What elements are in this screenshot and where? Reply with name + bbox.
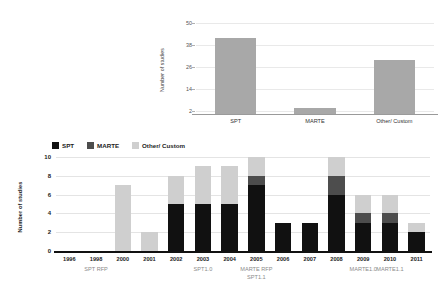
bottom-chart-milestone-annotation: SPT1.0 — [194, 266, 213, 272]
top-chart-y-tick-mark — [192, 89, 195, 90]
legend-swatch-icon — [87, 142, 94, 149]
bottom-chart-bar — [248, 157, 265, 251]
legend-swatch-icon — [132, 142, 139, 149]
bottom-chart-x-tick-label: 2008 — [330, 256, 342, 262]
bottom-chart-bar-segment — [328, 176, 345, 195]
bottom-chart-bar — [382, 195, 399, 251]
top-chart-y-tick-mark — [192, 45, 195, 46]
chart-legend: SPTMARTEOther/ Custom — [52, 140, 185, 150]
top-chart-bar — [215, 38, 256, 115]
bottom-chart-milestone-annotation: SPT RFP — [84, 266, 108, 272]
bottom-chart-gridline — [56, 195, 430, 196]
top-chart-y-axis-title: Number of studies — [156, 34, 168, 106]
bottom-chart-x-tick-label: 2001 — [143, 256, 155, 262]
bottom-chart-x-tick-label: 2004 — [223, 256, 235, 262]
bottom-chart-bar-segment — [115, 185, 132, 251]
bottom-chart-gridline — [56, 232, 430, 233]
bottom-chart-bar-segment — [382, 195, 399, 214]
top-chart-y-tick-mark — [192, 23, 195, 24]
bottom-chart-x-tick-label: 2009 — [357, 256, 369, 262]
bottom-chart-bar-segment — [382, 213, 399, 222]
bottom-chart-x-tick-label: 2000 — [117, 256, 129, 262]
legend-swatch-icon — [52, 142, 59, 149]
bottom-chart-x-axis-line — [54, 251, 432, 253]
top-chart-bar — [374, 60, 415, 115]
bottom-chart-bar-segment — [195, 166, 212, 204]
bottom-chart-bar-segment — [408, 232, 425, 251]
bottom-chart-y-tick-label: 0 — [48, 248, 51, 254]
bottom-chart-bar — [355, 195, 372, 251]
bottom-chart-bar-segment — [168, 204, 185, 251]
legend-label: Other/ Custom — [142, 142, 185, 149]
bottom-chart-bar-segment — [328, 195, 345, 251]
bottom-chart-bar — [221, 166, 238, 251]
legend-item: MARTE — [87, 142, 119, 149]
top-chart-y-tick-mark — [192, 111, 195, 112]
bottom-chart-bar-segment — [248, 157, 265, 176]
bottom-chart-milestone-annotation: SPT1.1 — [247, 274, 266, 280]
bottom-chart-bar-segment — [382, 223, 399, 251]
top-chart-x-tick-label: Other/ Custom — [376, 118, 412, 124]
bottom-chart-gridline — [56, 157, 430, 158]
bottom-chart-bar-segment — [221, 204, 238, 251]
bottom-chart-bar — [168, 176, 185, 251]
bottom-chart-plot-area: 0246810 — [56, 157, 430, 251]
legend-item: SPT — [52, 142, 74, 149]
bottom-chart-bar — [141, 232, 158, 251]
top-chart-y-tick-mark — [192, 67, 195, 68]
bottom-chart-bar-segment — [275, 223, 292, 251]
bottom-chart-bar — [408, 223, 425, 251]
top-chart-plot-area: 214263850 — [196, 16, 434, 115]
bottom-chart-bar-segment — [355, 213, 372, 222]
bottom-chart-bar-segment — [195, 204, 212, 251]
bottom-chart-milestone-annotation: MARTE1.1 — [376, 266, 403, 272]
bottom-chart-bar-segment — [302, 223, 319, 251]
legend-item: Other/ Custom — [132, 142, 185, 149]
bottom-chart-x-tick-label: 2007 — [304, 256, 316, 262]
bottom-chart-y-tick-label: 2 — [48, 229, 51, 235]
bottom-chart-x-tick-label: 2005 — [250, 256, 262, 262]
bottom-chart-milestone-annotation: MARTE RFP — [240, 266, 272, 272]
bottom-chart-x-tick-label: 2003 — [197, 256, 209, 262]
bottom-chart-y-tick-label: 4 — [48, 210, 51, 216]
bottom-chart-x-tick-label: 2002 — [170, 256, 182, 262]
bottom-chart-bar-segment — [248, 176, 265, 185]
bottom-chart-bar-segment — [328, 157, 345, 176]
bottom-chart-bar-segment — [141, 232, 158, 251]
bottom-chart-y-tick-label: 6 — [48, 192, 51, 198]
legend-label: SPT — [62, 142, 74, 149]
bottom-chart-bar — [302, 223, 319, 251]
top-bar-chart: Number of studies 214263850 SPTMARTEOthe… — [0, 0, 440, 136]
bottom-chart-bar-segment — [168, 176, 185, 204]
bottom-chart-bar-segment — [355, 195, 372, 214]
bottom-chart-x-tick-label: 2010 — [384, 256, 396, 262]
bottom-chart-y-tick-label: 10 — [44, 154, 51, 160]
bottom-chart-x-tick-label: 1998 — [90, 256, 102, 262]
bottom-chart-bar-segment — [408, 223, 425, 232]
bottom-chart-bar — [115, 185, 132, 251]
bottom-chart-bar-segment — [248, 185, 265, 251]
bottom-stacked-bar-chart: SPTMARTEOther/ Custom Number of studies … — [0, 136, 440, 296]
bottom-chart-gridline — [56, 176, 430, 177]
bottom-chart-bar-segment — [221, 166, 238, 204]
bottom-chart-milestone-annotation: MARTE1.0 — [350, 266, 377, 272]
bottom-chart-x-tick-label: 1996 — [63, 256, 75, 262]
bottom-chart-gridline — [56, 213, 430, 214]
bottom-chart-bar — [195, 166, 212, 251]
bottom-chart-bar — [275, 223, 292, 251]
top-chart-x-tick-label: MARTE — [305, 118, 324, 124]
bottom-chart-bar-segment — [355, 223, 372, 251]
bottom-chart-y-axis-title: Number of studies — [14, 168, 26, 246]
top-chart-gridline — [196, 23, 434, 24]
bottom-chart-bar — [328, 157, 345, 251]
top-chart-x-tick-label: SPT — [230, 118, 241, 124]
bottom-chart-x-tick-label: 2011 — [411, 256, 423, 262]
bottom-chart-x-tick-label: 2006 — [277, 256, 289, 262]
top-chart-x-axis-line — [192, 114, 438, 115]
bottom-chart-y-tick-label: 8 — [48, 173, 51, 179]
legend-label: MARTE — [97, 142, 119, 149]
